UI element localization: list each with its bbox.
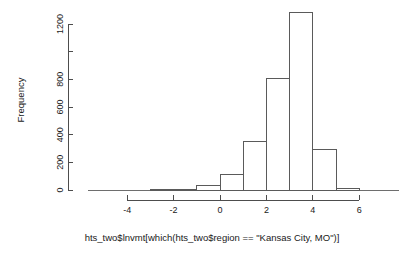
x-axis-title: hts_two$lnvmt[which(hts_two$region == "K… (85, 232, 340, 243)
x-tick-label: 6 (357, 205, 362, 215)
x-tick-label: -2 (170, 205, 178, 215)
histogram-bar (150, 190, 173, 191)
histogram-bar (197, 186, 220, 190)
y-axis (68, 24, 73, 190)
histogram-bar (243, 142, 266, 190)
histogram-bar (220, 175, 243, 190)
histogram-canvas: 02004006008001200 -4-20246 hts_two$lnvmt… (0, 0, 416, 254)
histogram-bar (290, 13, 313, 190)
x-tick-label: 4 (310, 205, 315, 215)
x-tick-label: -4 (123, 205, 131, 215)
histogram-bar (266, 79, 289, 190)
histogram-bar (174, 190, 197, 191)
y-tick-label: 200 (55, 155, 65, 170)
histogram-bar (313, 149, 336, 190)
y-tick-label: 600 (55, 99, 65, 114)
y-tick-label: 1200 (55, 14, 65, 34)
histogram-figure: 02004006008001200 -4-20246 hts_two$lnvmt… (0, 0, 416, 254)
y-tick-label: 400 (55, 127, 65, 142)
y-tick-label: 0 (55, 187, 65, 192)
histogram-bar (336, 189, 359, 190)
y-tick-labels: 02004006008001200 (55, 14, 65, 193)
bars-group (88, 13, 399, 190)
x-tick-label: 0 (217, 205, 222, 215)
x-tick-label: 2 (264, 205, 269, 215)
x-axis (127, 195, 359, 200)
x-tick-labels: -4-20246 (123, 205, 362, 215)
y-axis-title: Frequency (15, 77, 26, 122)
y-tick-label: 800 (55, 72, 65, 87)
